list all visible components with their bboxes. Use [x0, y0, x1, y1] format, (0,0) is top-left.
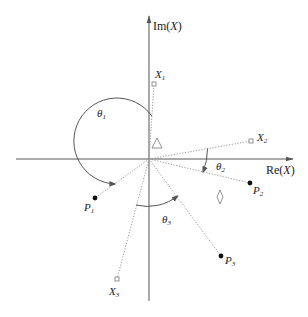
complex-plane-diagram: Im(X) Re(X) X1 X2 X3 P1 P2 P3 θ1 θ2 θ3	[0, 0, 308, 317]
theta2-label: θ2	[216, 160, 225, 174]
ray-x3	[117, 159, 149, 279]
p3-dot	[219, 254, 224, 259]
theta3-arc	[136, 196, 178, 206]
x3-label: X3	[108, 285, 120, 299]
real-axis-label: Re(X)	[266, 163, 295, 177]
x2-label: X2	[256, 131, 268, 145]
theta1-arc	[74, 98, 152, 184]
x2-marker	[249, 139, 253, 143]
diamond-marker	[217, 190, 223, 204]
p3-label: P3	[224, 254, 236, 268]
theta2-arc	[203, 149, 208, 172]
p1-label: P1	[83, 201, 94, 215]
theta3-label: θ3	[162, 213, 171, 227]
x3-marker	[115, 277, 119, 281]
p2-label: P2	[252, 184, 264, 198]
imaginary-axis-label: Im(X)	[153, 19, 182, 33]
p2-dot	[248, 181, 253, 186]
theta1-label: θ1	[97, 107, 106, 121]
x1-label: X1	[154, 68, 165, 82]
ray-x2	[149, 141, 251, 159]
ray-p1	[95, 159, 149, 198]
x1-marker	[152, 82, 156, 86]
ray-p3	[149, 159, 221, 256]
triangle-marker	[152, 138, 162, 148]
p1-dot	[93, 196, 98, 201]
